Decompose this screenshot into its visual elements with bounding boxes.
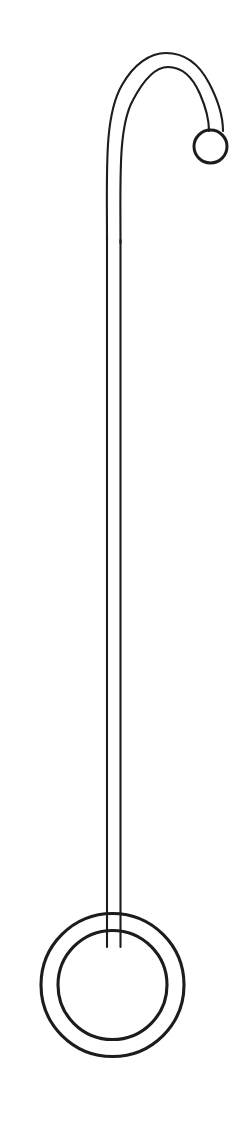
hook-outer-arc [107,53,223,240]
base-ring-outer [41,914,184,1057]
base-ring-inner [58,931,167,1040]
drawing-canvas [0,0,249,1139]
small-ring-icon [194,130,227,163]
line-drawing-svg [0,0,249,1139]
